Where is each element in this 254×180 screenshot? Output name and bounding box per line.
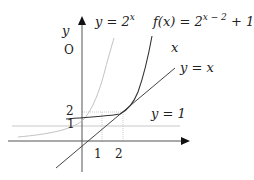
tick-y2: 2 — [66, 104, 74, 118]
x-mark-label: x — [171, 40, 179, 55]
tick-y1: 1 — [67, 117, 75, 131]
exp-label: y = 2x — [94, 12, 135, 29]
tick-x2: 2 — [115, 147, 123, 161]
asymptote-label: y = 1 — [150, 106, 186, 121]
tick-x1: 1 — [94, 147, 102, 161]
origin-label: O — [64, 43, 74, 57]
x-axis-arrow-icon — [181, 137, 190, 145]
curve-f — [66, 36, 152, 119]
f-label: f(x) = 2x − 2 + 1 — [152, 12, 254, 29]
graph: y O y = 2x f(x) = 2x − 2 + 1 x y = x y =… — [0, 0, 254, 180]
y-axis-arrow-icon — [78, 16, 86, 25]
line-label: y = x — [179, 60, 215, 75]
y-axis-label: y — [61, 23, 70, 38]
